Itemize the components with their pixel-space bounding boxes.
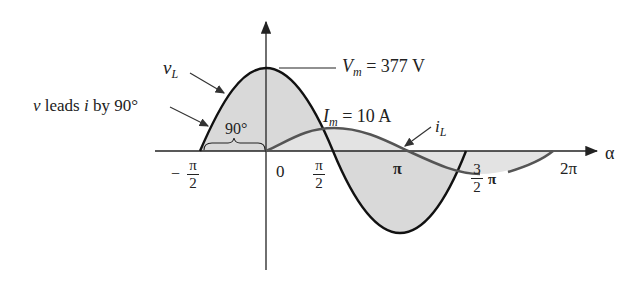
il-pointer-arrow [405, 127, 431, 146]
im-annotation: Im = 10 A [323, 107, 391, 128]
tick-zero: 0 [276, 163, 285, 180]
phase-bracket-label: 90° [225, 121, 247, 137]
tick-pi: π [393, 161, 402, 177]
tick-neg-half-pi: π2 [187, 158, 199, 191]
waveform-diagram [0, 0, 633, 283]
vl-label: vL [163, 58, 178, 80]
tick-two-pi: 2π [560, 160, 577, 177]
x-axis-label: α [605, 144, 614, 162]
tick-three-half-pi: 32 [471, 162, 483, 195]
tick-half-pi: π2 [313, 158, 325, 191]
il-label: iL [435, 118, 446, 138]
vm-annotation: Vm = 377 V [342, 57, 425, 78]
vl-pointer-arrow [190, 73, 224, 93]
lead-pointer-arrow [170, 107, 208, 126]
tick-three-half-pi-suffix: π [488, 172, 496, 187]
tick-neg-half-pi-sign: − [171, 166, 180, 182]
lead-annotation: v leads i by 90° [33, 97, 138, 114]
